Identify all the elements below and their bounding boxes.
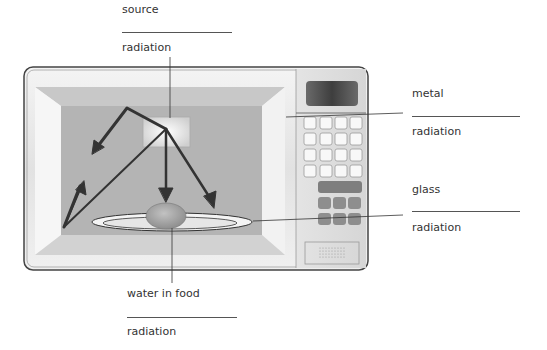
label-metal: metal	[412, 87, 444, 100]
label-metal-radiation: radiation	[412, 125, 461, 138]
label-glass: glass	[412, 183, 440, 196]
label-water-in-food: water in food	[127, 287, 200, 300]
label-glass-radiation: radiation	[412, 221, 461, 234]
label-source: source	[122, 3, 159, 16]
food-item	[146, 203, 186, 229]
answer-line-glass[interactable]	[412, 211, 520, 212]
display-screen	[306, 81, 358, 106]
answer-line-water[interactable]	[127, 317, 237, 318]
label-source-radiation: radiation	[122, 41, 171, 54]
answer-line-source[interactable]	[122, 32, 232, 33]
answer-line-metal[interactable]	[412, 116, 520, 117]
start-button-bar	[318, 181, 362, 193]
microwave-diagram	[0, 0, 547, 350]
label-water-radiation: radiation	[127, 325, 176, 338]
control-panel	[296, 69, 366, 268]
